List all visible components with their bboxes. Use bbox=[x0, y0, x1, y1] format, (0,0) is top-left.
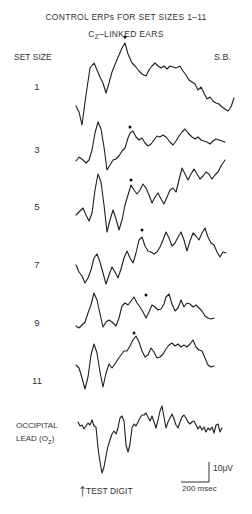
erp-trace-5 bbox=[76, 336, 214, 389]
erp-trace-3 bbox=[76, 228, 226, 284]
amplitude-scale-label: 10μV bbox=[213, 463, 233, 473]
erp-plot bbox=[0, 0, 252, 514]
erp-trace-6 bbox=[78, 406, 222, 473]
peak-marker bbox=[130, 179, 133, 182]
peak-marker bbox=[129, 126, 132, 129]
peak-marker bbox=[124, 36, 127, 39]
erp-trace-4 bbox=[76, 293, 214, 328]
test-digit-label: TEST DIGIT bbox=[86, 486, 133, 496]
time-scale-label: 200 msec bbox=[182, 484, 217, 493]
peak-marker bbox=[141, 229, 144, 232]
peak-marker bbox=[145, 294, 148, 297]
erp-trace-0 bbox=[76, 43, 234, 125]
erp-trace-1 bbox=[76, 122, 225, 170]
scale-bar bbox=[181, 462, 209, 482]
peak-marker bbox=[133, 332, 136, 335]
erp-trace-2 bbox=[76, 160, 225, 232]
